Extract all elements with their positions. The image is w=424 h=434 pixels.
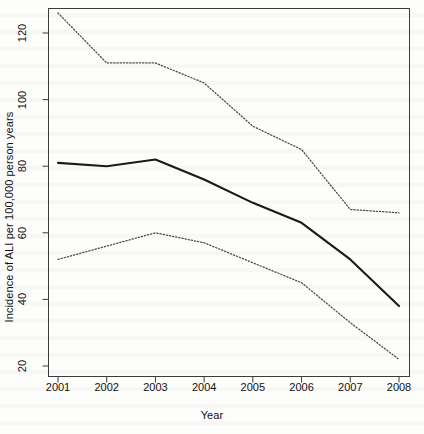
y-tick-label-text: 120 — [16, 24, 28, 42]
series-line-2 — [58, 233, 399, 360]
x-tick-label: 2001 — [46, 381, 70, 393]
y-tick-label-text: 20 — [16, 360, 28, 372]
y-tick-label-text: 80 — [16, 160, 28, 172]
y-axis-title-text: Incidence of ALI per 100,000 person year… — [3, 112, 15, 323]
series-line-1 — [58, 160, 399, 307]
y-tick-label-text: 60 — [16, 227, 28, 239]
chart-figure: Incidence of ALI per 100,000 person year… — [0, 0, 424, 434]
x-tick-label: 2004 — [192, 381, 216, 393]
x-axis-title-text: Year — [201, 409, 224, 421]
x-tick-label: 2008 — [387, 381, 411, 393]
y-tick-label-text: 100 — [16, 90, 28, 108]
x-tick-label: 2002 — [94, 381, 118, 393]
chart-plot-area — [0, 0, 424, 434]
x-axis-title: Year — [0, 409, 424, 421]
x-tick-label: 2005 — [241, 381, 265, 393]
x-tick-label: 2006 — [289, 381, 313, 393]
y-tick-label-text: 40 — [16, 293, 28, 305]
series-line-0 — [58, 13, 399, 213]
y-axis-title: Incidence of ALI per 100,000 person year… — [0, 0, 17, 434]
y-axis-ticks — [43, 33, 49, 366]
x-tick-label: 2007 — [338, 381, 362, 393]
x-tick-label: 2003 — [143, 381, 167, 393]
data-series-layer — [58, 13, 399, 359]
